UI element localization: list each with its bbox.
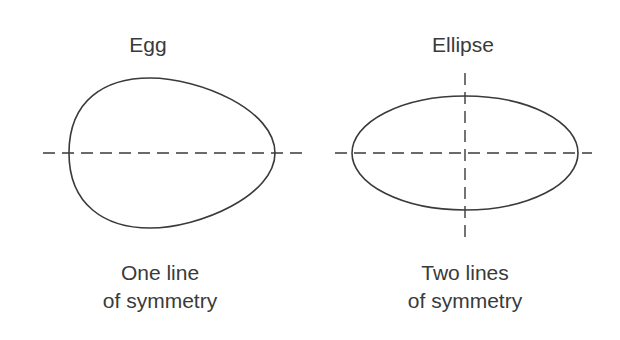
ellipse-caption-line2: of symmetry (408, 287, 522, 315)
ellipse-figure (335, 73, 592, 238)
egg-figure (43, 78, 308, 228)
ellipse-caption-line1: Two lines (421, 259, 509, 287)
egg-title: Egg (129, 31, 166, 59)
egg-caption-line2: of symmetry (103, 287, 217, 315)
diagram-canvas (0, 0, 620, 340)
ellipse-title: Ellipse (432, 31, 494, 59)
egg-caption-line1: One line (121, 259, 199, 287)
